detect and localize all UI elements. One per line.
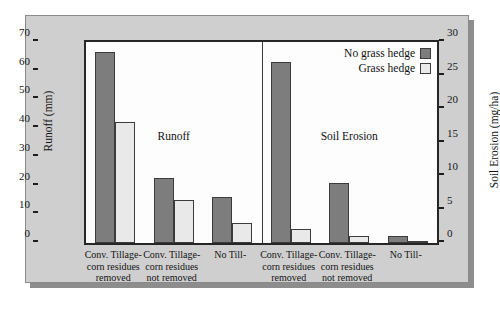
x-axis-tick-label: Conv. Tillage- corn residues not removed bbox=[143, 249, 202, 284]
right-axis-tick-mark bbox=[439, 207, 444, 209]
bar bbox=[388, 236, 408, 243]
legend-item-label: Grass hedge bbox=[358, 62, 415, 74]
x-axis-tick-label: No Till- bbox=[377, 249, 436, 261]
panel-divider bbox=[262, 42, 263, 243]
bar bbox=[329, 183, 349, 243]
right-axis-tick-mark bbox=[439, 173, 444, 175]
legend-item: Grass hedge bbox=[344, 62, 431, 74]
bar bbox=[291, 229, 311, 243]
right-axis-tick-mark bbox=[439, 39, 444, 41]
left-axis-tick-mark bbox=[33, 68, 38, 70]
left-axis-tick-mark bbox=[33, 211, 38, 213]
bar bbox=[115, 122, 135, 243]
bar bbox=[154, 178, 174, 243]
bar bbox=[212, 197, 232, 243]
bar bbox=[95, 52, 115, 243]
x-axis-tick-label: Conv. Tillage- corn residues removed bbox=[260, 249, 319, 284]
right-axis-title: Soil Erosion (mg/ha) bbox=[488, 55, 500, 225]
panel-caption: Runoff bbox=[158, 130, 190, 142]
left-axis-tick-mark bbox=[33, 154, 38, 156]
right-axis-tick-mark bbox=[439, 240, 444, 242]
left-axis-tick-mark bbox=[33, 96, 38, 98]
bar bbox=[232, 223, 252, 243]
legend: No grass hedgeGrass hedge bbox=[344, 47, 431, 77]
legend-swatch bbox=[420, 48, 431, 59]
right-axis-tick-mark bbox=[439, 140, 444, 142]
figure-panel: 010203040506070 Runoff (mm) 051015202530… bbox=[25, 15, 469, 283]
panel-caption: Soil Erosion bbox=[321, 130, 378, 142]
legend-item-label: No grass hedge bbox=[344, 47, 415, 59]
left-axis-tick-mark bbox=[33, 183, 38, 185]
left-axis-tick-mark bbox=[33, 240, 38, 242]
legend-swatch bbox=[420, 63, 431, 74]
x-axis-tick-label: No Till- bbox=[201, 249, 260, 261]
right-axis: 051015202530 bbox=[439, 40, 485, 245]
bar bbox=[174, 200, 194, 243]
bar bbox=[408, 241, 428, 243]
x-axis-tick-label: Conv. Tillage- corn residues not removed bbox=[318, 249, 377, 284]
plot-area: RunoffSoil Erosion No grass hedgeGrass h… bbox=[84, 40, 439, 245]
left-axis-tick-mark bbox=[33, 39, 38, 41]
right-axis-tick-mark bbox=[439, 106, 444, 108]
left-axis-tick-mark bbox=[33, 125, 38, 127]
legend-item: No grass hedge bbox=[344, 47, 431, 59]
bar bbox=[349, 236, 369, 243]
right-axis-tick-mark bbox=[439, 73, 444, 75]
left-axis-title: Runoff (mm) bbox=[42, 51, 54, 191]
bar bbox=[271, 62, 291, 243]
x-axis-tick-label: Conv. Tillage- corn residues removed bbox=[84, 249, 143, 284]
